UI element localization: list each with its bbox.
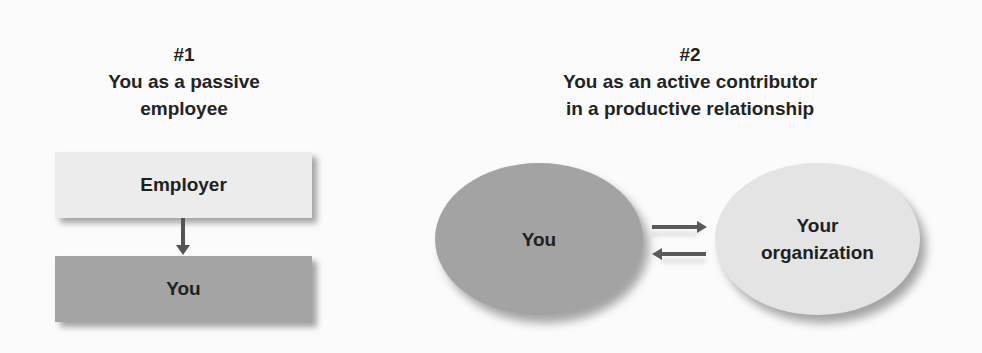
organization-label-line2: organization [761, 239, 874, 266]
organization-label: Your organization [761, 212, 874, 266]
panel2-heading: #2 You as an active contributor in a pro… [440, 41, 940, 122]
employer-label: Employer [140, 174, 227, 196]
panel2-title-line2: in a productive relationship [440, 95, 940, 122]
arrow-down-icon [181, 218, 185, 246]
panel1-title-line2: employee [55, 95, 313, 122]
you-box: You [55, 256, 312, 322]
panel2-title-line1: You as an active contributor [440, 68, 940, 95]
panel2-number: #2 [440, 41, 940, 68]
employer-box: Employer [55, 152, 312, 218]
panel1-number: #1 [55, 41, 313, 68]
organization-label-line1: Your [761, 212, 874, 239]
you-ellipse: You [435, 163, 643, 315]
panel1-heading: #1 You as a passive employee [55, 41, 313, 122]
organization-ellipse: Your organization [715, 163, 920, 315]
panel1-title-line1: You as a passive [55, 68, 313, 95]
you-box-label: You [166, 278, 200, 300]
arrow-left-icon [661, 252, 706, 256]
you-ellipse-label: You [522, 226, 556, 253]
arrow-right-icon [652, 225, 698, 229]
